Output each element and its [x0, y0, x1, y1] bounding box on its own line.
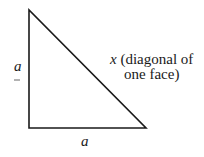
hypotenuse-label-line2: one face)	[124, 67, 179, 82]
hypotenuse-variable: x	[110, 51, 117, 67]
hypotenuse-desc-1: (diagonal of	[120, 51, 193, 67]
bottom-side-label: a	[81, 134, 89, 149]
hypotenuse-label-line1: x (diagonal of	[110, 52, 193, 67]
left-side-label: a	[14, 59, 22, 74]
